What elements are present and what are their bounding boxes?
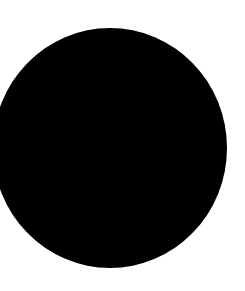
black-circle: [0, 28, 227, 268]
image-canvas: [0, 0, 245, 291]
